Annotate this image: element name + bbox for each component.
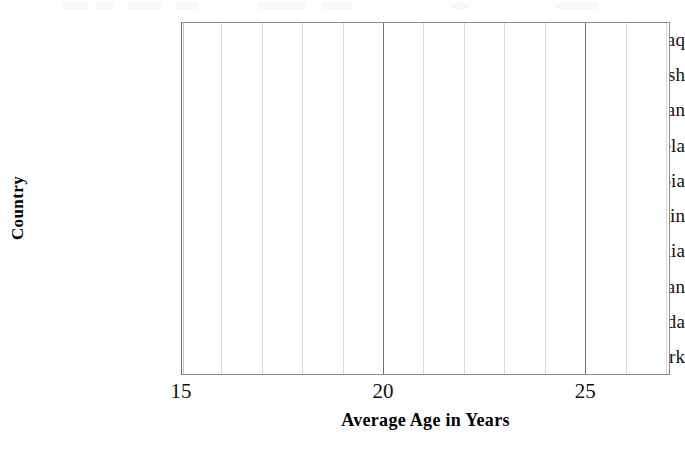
scan-artifact: [128, 2, 162, 9]
gridline: [666, 23, 667, 374]
gridline: [545, 23, 546, 374]
scan-artifact: [176, 2, 198, 9]
x-axis-tick-label-20: 20: [353, 379, 413, 403]
scan-artifact: [96, 2, 114, 9]
x-axis-title: Average Age in Years: [181, 410, 670, 431]
gridline: [585, 23, 586, 374]
gridline: [423, 23, 424, 374]
gridline: [302, 23, 303, 374]
scan-artifact: [258, 2, 306, 9]
scan-artifact: [322, 2, 352, 9]
chart-figure: Country IraqBangladeshSudanVenezuelaEthi…: [0, 0, 685, 449]
gridline: [504, 23, 505, 374]
scan-artifact: [62, 2, 88, 9]
plot-area: [181, 22, 670, 375]
gridline: [383, 23, 384, 374]
gridline: [464, 23, 465, 374]
x-axis-tick-label-25: 25: [555, 379, 615, 403]
gridline: [221, 23, 222, 374]
y-axis-title: Country: [8, 128, 28, 288]
scan-artifact: [452, 2, 468, 9]
gridline: [343, 23, 344, 374]
x-axis-tick-label-15: 15: [151, 379, 211, 403]
gridline: [262, 23, 263, 374]
scan-artifact: [556, 2, 598, 9]
gridline: [626, 23, 627, 374]
